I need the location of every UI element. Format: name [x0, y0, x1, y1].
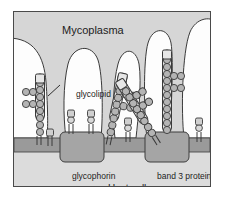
mycoplasma-adhesion-figure: Mycoplasma glycolipid glycophorin band 3… [0, 0, 228, 203]
label-mycoplasma: Mycoplasma [62, 25, 124, 36]
label-glycophorin: glycophorin [72, 172, 115, 181]
label-band-3-protein: band 3 protein [157, 172, 211, 181]
label-glycolipid: glycolipid [76, 90, 111, 99]
label-host-cell: Host cell [108, 184, 146, 187]
figure-frame: Mycoplasma glycolipid glycophorin band 3… [13, 11, 211, 187]
membrane-protein-glycophorin [60, 132, 104, 162]
diagram-canvas [14, 12, 210, 186]
